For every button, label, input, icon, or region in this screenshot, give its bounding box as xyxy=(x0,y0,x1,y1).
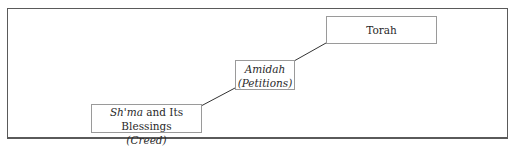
node-amidah-line1: Amidah xyxy=(236,62,294,76)
node-shma-line1: Sh'ma and Its Blessings xyxy=(92,105,201,133)
edge-shma-amidah xyxy=(201,88,235,106)
node-torah-label: Torah xyxy=(327,23,436,37)
node-amidah: Amidah (Petitions) xyxy=(235,60,295,90)
node-amidah-line2: (Petitions) xyxy=(236,76,294,90)
node-shma-line2: (Creed) xyxy=(92,133,201,147)
shma-italic: Sh'ma xyxy=(110,106,143,118)
node-shma: Sh'ma and Its Blessings (Creed) xyxy=(91,104,202,133)
node-torah: Torah xyxy=(326,16,437,44)
edge-amidah-torah xyxy=(294,43,326,61)
